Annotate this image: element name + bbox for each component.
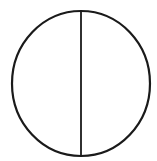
divided-circle-diagram — [0, 0, 157, 161]
